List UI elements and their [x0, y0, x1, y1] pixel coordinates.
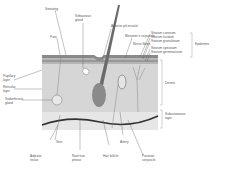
label-epidermis: Epidermis — [195, 43, 209, 47]
skin-diagram: Sweating Sebaceous gland Arrector pili m… — [0, 0, 242, 177]
label-subcutaneous-layer: Subcutaneous layer — [165, 113, 185, 120]
label-stratum-granulosum: Stratum granulosum — [151, 40, 180, 44]
label-dermis: Dermis — [165, 82, 175, 86]
label-pore: Pore — [50, 36, 57, 40]
label-sudoriferous-gland: Sudoriferous gland — [5, 98, 23, 105]
label-papillary-layer: Papillary layer — [3, 75, 15, 82]
label-vein: Vein — [56, 141, 62, 145]
label-reticular-layer: Reticular layer — [3, 86, 16, 93]
label-stratum-germinativum: Stratum germinativum — [151, 51, 182, 55]
label-hair-follicle: Hair follicle — [103, 155, 119, 159]
label-artery: Artery — [120, 141, 129, 145]
label-sweating: Sweating — [45, 8, 58, 12]
hair-follicle — [92, 83, 106, 107]
label-nerve-fibres: Nerve fibres — [133, 43, 150, 47]
label-adipose-tissue: Adipose tissue — [30, 155, 42, 162]
label-pacinian-corpuscle: Pacinian corpuscle — [142, 155, 156, 162]
label-arrector-pili: Arrector pili muscle — [111, 25, 138, 29]
label-root-hair-plexus: Root hair plexus — [72, 155, 85, 162]
sweat-gland — [52, 95, 62, 105]
label-sebaceous-gland: Sebaceous gland — [75, 15, 91, 22]
